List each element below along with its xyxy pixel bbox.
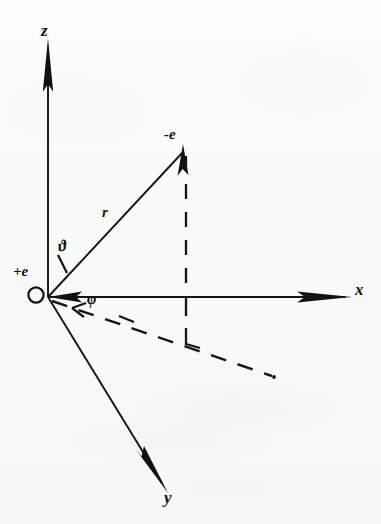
theta-angle-tick xyxy=(58,255,67,273)
z-axis xyxy=(43,38,53,297)
position-vector-r xyxy=(48,144,188,297)
z-axis-arrowhead-icon xyxy=(43,38,53,92)
y-axis xyxy=(48,297,168,493)
axis-label-z: z xyxy=(41,22,48,39)
y-axis-arrowhead-icon xyxy=(135,446,168,493)
vector-r-line xyxy=(48,152,183,297)
vector-label-r: r xyxy=(102,205,108,220)
azimuthal-angle-tick-icon xyxy=(72,303,134,322)
origin-charge-circle-marker xyxy=(28,287,43,302)
projection-end-dot xyxy=(272,375,276,379)
phi-angle-tick-upper xyxy=(72,303,86,308)
coordinate-diagram xyxy=(0,0,381,524)
axis-label-x: x xyxy=(355,281,364,298)
projection-dashed-line xyxy=(52,301,272,376)
polar-angle-tick-icon xyxy=(58,255,67,273)
figure-container: z x y +e -e r ϑ φ xyxy=(0,0,381,524)
phi-angle-tick-trailing xyxy=(119,316,134,322)
axis-label-y: y xyxy=(164,489,172,506)
right-angle-marker-icon xyxy=(186,328,200,348)
azimuthal-projection-line xyxy=(52,301,276,379)
angle-label-azimuthal: φ xyxy=(87,291,96,307)
x-axis-arrowhead-icon xyxy=(297,291,352,302)
charge-label-positive: +e xyxy=(13,264,28,279)
charge-label-negative: -e xyxy=(164,127,176,142)
